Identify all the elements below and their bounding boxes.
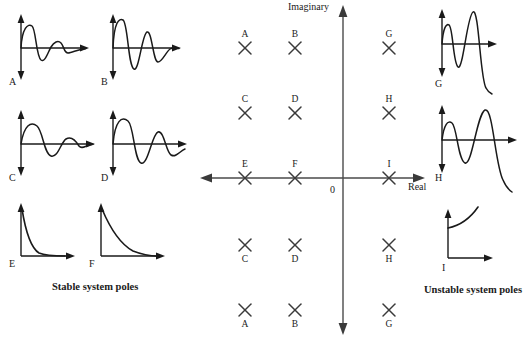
pole-label: G: [386, 319, 393, 329]
pole-label: D: [292, 94, 299, 104]
pole-label: G: [386, 29, 393, 39]
origin-label: 0: [330, 184, 335, 195]
pole-label: D: [292, 254, 299, 264]
response-label-F: F: [89, 258, 95, 269]
response-plot-E: [8, 200, 84, 266]
pole-label: E: [242, 159, 248, 169]
pole-marker[interactable]: [287, 40, 303, 56]
real-axis-label: Real: [408, 181, 426, 192]
response-label-G: G: [435, 78, 442, 89]
response-plot-I: [432, 204, 508, 270]
pole-marker[interactable]: [237, 170, 253, 186]
response-label-E: E: [9, 258, 15, 269]
pole-label: A: [242, 319, 249, 329]
response-label-A: A: [9, 76, 16, 87]
pole-marker[interactable]: [381, 40, 397, 56]
pole-label: F: [292, 159, 297, 169]
response-label-D: D: [101, 172, 108, 183]
pole-label: I: [387, 159, 390, 169]
pole-marker[interactable]: [287, 105, 303, 121]
pole-label: C: [242, 254, 248, 264]
response-plot-F: [88, 200, 174, 266]
pole-marker[interactable]: [237, 237, 253, 253]
pole-marker[interactable]: [381, 105, 397, 121]
response-plot-C: [8, 108, 98, 178]
pole-label: H: [386, 94, 393, 104]
response-plot-D: [100, 108, 190, 178]
stable-poles-caption: Stable system poles: [52, 281, 138, 292]
pole-marker[interactable]: [287, 302, 303, 318]
s-plane-diagram: Imaginary Real 0 A B G C D H: [195, 0, 430, 340]
pole-marker[interactable]: [381, 302, 397, 318]
imaginary-axis-label: Imaginary: [288, 1, 329, 12]
pole-marker[interactable]: [237, 40, 253, 56]
pole-label: C: [242, 94, 248, 104]
pole-label: B: [292, 319, 298, 329]
response-label-H: H: [435, 172, 442, 183]
response-label-I: I: [442, 262, 446, 273]
pole-marker[interactable]: [237, 105, 253, 121]
response-plot-B: [100, 12, 186, 82]
pole-label: A: [242, 29, 249, 39]
pole-marker[interactable]: [381, 237, 397, 253]
pole-marker[interactable]: [237, 302, 253, 318]
response-plot-A: [8, 12, 94, 82]
unstable-poles-caption: Unstable system poles: [424, 284, 522, 295]
pole-label: H: [386, 254, 393, 264]
response-label-C: C: [9, 172, 16, 183]
response-label-B: B: [101, 76, 108, 87]
figure-root: A B: [0, 0, 530, 340]
pole-marker[interactable]: [287, 170, 303, 186]
pole-label: B: [292, 29, 298, 39]
pole-marker[interactable]: [287, 237, 303, 253]
pole-marker[interactable]: [381, 170, 397, 186]
